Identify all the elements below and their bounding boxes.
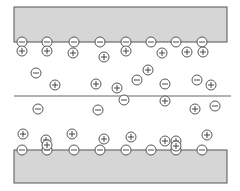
negative-ion-icon (197, 145, 207, 155)
positive-ion-icon (160, 136, 170, 146)
negative-ion-icon (119, 95, 129, 105)
positive-ion-icon (112, 83, 122, 93)
positive-ion-icon (121, 46, 131, 56)
negative-ion-icon (69, 37, 79, 47)
negative-ion-icon (17, 145, 27, 155)
positive-ion-icon (198, 47, 208, 57)
negative-ion-icon (171, 37, 181, 47)
positive-ion-icon (160, 96, 170, 106)
double-layer-diagram (0, 0, 240, 191)
positive-ion-icon (50, 80, 60, 90)
positive-ion-icon (190, 104, 200, 114)
negative-ion-icon (95, 37, 105, 47)
negative-ion-icon (121, 37, 131, 47)
positive-ion-icon (42, 140, 52, 150)
positive-ion-icon (68, 48, 78, 58)
negative-ion-icon (160, 79, 170, 89)
negative-ion-icon (17, 37, 27, 47)
negative-ion-icon (93, 105, 103, 115)
negative-ion-icon (192, 75, 202, 85)
negative-ion-icon (69, 145, 79, 155)
positive-ion-icon (18, 129, 28, 139)
positive-ion-icon (91, 79, 101, 89)
positive-ion-icon (99, 134, 109, 144)
positive-ion-icon (157, 48, 167, 58)
positive-ion-icon (206, 80, 216, 90)
positive-ion-icon (171, 141, 181, 151)
negative-ion-icon (42, 37, 52, 47)
positive-ion-icon (99, 52, 109, 62)
positive-ion-icon (126, 132, 136, 142)
negative-ion-icon (31, 68, 41, 78)
positive-ion-icon (67, 129, 77, 139)
negative-ion-icon (95, 145, 105, 155)
positive-ion-icon (17, 46, 27, 56)
negative-ion-icon (210, 101, 220, 111)
positive-ion-icon (42, 46, 52, 56)
negative-ion-icon (132, 75, 142, 85)
positive-ion-icon (182, 47, 192, 57)
positive-ion-icon (143, 65, 153, 75)
negative-ion-icon (121, 145, 131, 155)
negative-ion-icon (146, 145, 156, 155)
negative-ion-icon (33, 104, 43, 114)
negative-ion-icon (146, 37, 156, 47)
negative-ion-icon (197, 37, 207, 47)
positive-ion-icon (202, 130, 212, 140)
